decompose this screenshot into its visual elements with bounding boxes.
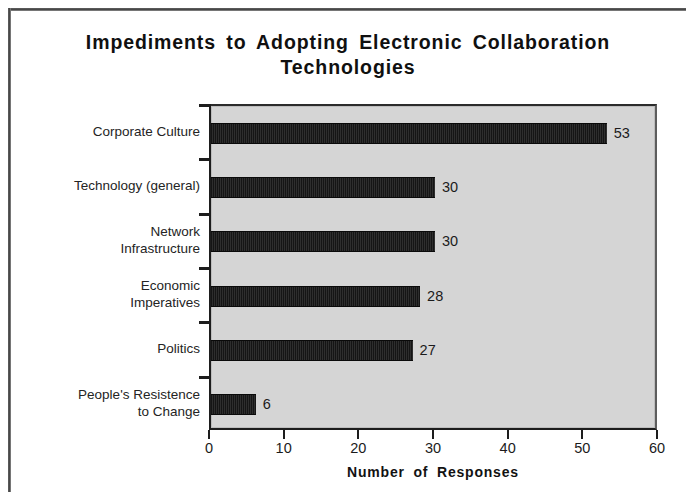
bar-row: 6: [211, 394, 655, 415]
y-axis-category-label: Technology (general): [14, 177, 200, 194]
page-frame-top-rule: [8, 8, 686, 11]
y-axis-category-label: Network Infrastructure: [14, 223, 200, 257]
y-axis-tick: [199, 321, 211, 324]
x-axis-tick: [208, 430, 210, 439]
y-axis-tick: [199, 376, 211, 379]
x-axis-tick: [581, 430, 583, 439]
x-axis-tick: [656, 430, 658, 439]
x-axis-title: Number of Responses: [209, 464, 657, 480]
x-axis-tick: [283, 430, 285, 439]
page-frame-left-rule: [8, 8, 11, 492]
chart-title-line-1: Impediments to Adopting Electronic Colla…: [86, 31, 610, 53]
bar-row: 30: [211, 177, 655, 198]
bar-row: 53: [211, 123, 655, 144]
bar-row: 28: [211, 286, 655, 307]
x-axis-tick-label: 0: [189, 440, 229, 456]
bars-container: 53303028276: [211, 106, 655, 428]
y-axis-tick: [199, 104, 211, 107]
bar: [211, 123, 607, 144]
y-axis-tick: [199, 267, 211, 270]
y-axis-category-label: People's Resistence to Change: [14, 386, 200, 420]
x-axis-tick: [432, 430, 434, 439]
bar-row: 27: [211, 340, 655, 361]
bar-row: 30: [211, 231, 655, 252]
y-axis-labels: Corporate CultureTechnology (general)Net…: [14, 104, 200, 430]
y-axis-category-label: Economic Imperatives: [14, 277, 200, 311]
x-axis-tick-label: 40: [488, 440, 528, 456]
x-axis-tick: [357, 430, 359, 439]
chart-title: Impediments to Adopting Electronic Colla…: [40, 30, 656, 80]
bar-value-label: 30: [435, 231, 458, 252]
y-axis-tick: [199, 158, 211, 161]
bar: [211, 394, 256, 415]
x-axis-tick-label: 20: [338, 440, 378, 456]
x-axis-tick-label: 50: [562, 440, 602, 456]
bar-value-label: 28: [420, 286, 443, 307]
y-axis-category-label: Politics: [14, 340, 200, 357]
plot-area: 53303028276: [209, 104, 657, 430]
bar-value-label: 30: [435, 177, 458, 198]
bar-value-label: 6: [256, 394, 271, 415]
bar: [211, 340, 413, 361]
bar: [211, 231, 435, 252]
bar-value-label: 53: [607, 123, 630, 144]
x-axis-tick-label: 60: [637, 440, 677, 456]
chart-title-line-2: Technologies: [280, 56, 415, 78]
bar: [211, 177, 435, 198]
y-axis-tick: [199, 213, 211, 216]
x-axis-tick: [507, 430, 509, 439]
y-axis-category-label: Corporate Culture: [14, 123, 200, 140]
bar: [211, 286, 420, 307]
x-axis-tick-label: 10: [264, 440, 304, 456]
x-axis-tick-label: 30: [413, 440, 453, 456]
bar-value-label: 27: [413, 340, 436, 361]
